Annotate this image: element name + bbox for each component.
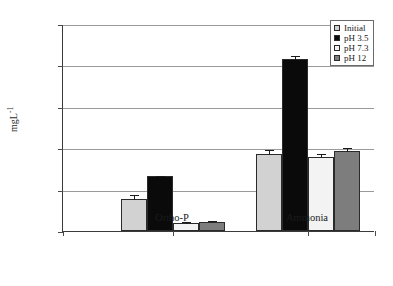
legend-item-label: pH 12	[344, 54, 366, 63]
y-tick-mark	[58, 149, 63, 150]
bar-ph-12-ortho-p	[199, 222, 225, 231]
bar-ph-7-3-ortho-p	[173, 223, 199, 231]
legend-item-label: pH 7.3	[344, 44, 369, 53]
y-axis-title-text: mgL	[8, 113, 19, 132]
legend-item-label: pH 3.5	[344, 34, 369, 43]
legend-item-label: Initial	[344, 24, 366, 33]
x-axis-label-ammonia: Ammonia	[257, 212, 357, 223]
x-tick-mark	[308, 231, 309, 236]
y-tick-mark	[58, 66, 63, 67]
gridline	[63, 25, 374, 26]
legend-swatch-icon	[334, 35, 340, 41]
gridline	[63, 149, 374, 150]
legend-swatch-icon	[334, 45, 340, 51]
error-bar-cap	[130, 195, 139, 196]
chart-legend: InitialpH 3.5pH 7.3pH 12	[330, 20, 374, 66]
error-bar-cap	[291, 56, 300, 57]
gridline	[63, 66, 374, 67]
legend-item-initial[interactable]: Initial	[334, 23, 369, 33]
legend-swatch-icon	[334, 55, 340, 61]
y-axis-title: mgL-1	[6, 107, 19, 132]
error-bar-cap	[343, 148, 352, 149]
gridline	[63, 108, 374, 109]
y-axis-title-exponent: -1	[6, 107, 15, 113]
bar-ph-3-5-ammonia	[282, 59, 308, 231]
y-tick-mark	[58, 191, 63, 192]
error-bar-cap	[265, 150, 274, 151]
plot-area: 050100150200250	[62, 25, 374, 232]
legend-item-ph-3-5[interactable]: pH 3.5	[334, 33, 369, 43]
y-tick-mark	[58, 108, 63, 109]
legend-item-ph-12[interactable]: pH 12	[334, 53, 369, 63]
x-tick-mark	[173, 231, 174, 236]
x-tick-mark-end	[63, 231, 64, 236]
legend-item-ph-7-3[interactable]: pH 7.3	[334, 43, 369, 53]
x-tick-mark-end	[375, 231, 376, 236]
legend-swatch-icon	[334, 25, 340, 31]
x-axis-label-ortho-p: Ortho-P	[122, 212, 222, 223]
error-bar-cap	[156, 176, 165, 177]
chart-figure: mgL-1 050100150200250 Ortho-PAmmonia Ini…	[0, 0, 393, 286]
y-tick-mark	[58, 25, 63, 26]
error-bar-cap	[317, 154, 326, 155]
